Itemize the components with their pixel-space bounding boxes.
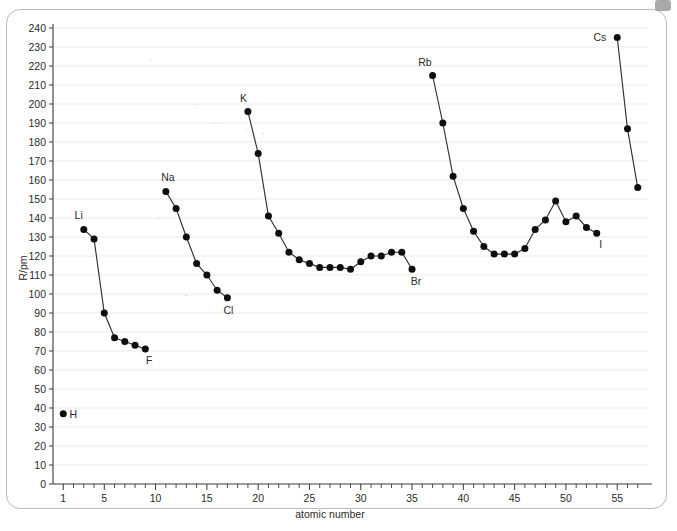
series-hydrogen [60,410,67,417]
y-tick-label: 20 [34,440,46,452]
series-line [248,112,412,270]
series-period-2 [80,226,149,353]
data-point [409,266,416,273]
series-period-5 [429,72,600,258]
y-tick-label: 40 [34,402,46,414]
data-point [429,72,436,79]
x-tick-label: 20 [252,492,264,504]
data-point [285,249,292,256]
y-tick-label: 100 [28,288,46,300]
data-point [624,125,631,132]
x-tick-label: 10 [150,492,162,504]
data-point [80,226,87,233]
data-point [91,235,98,242]
axis-lines [53,24,652,484]
point-label-cl: Cl [223,304,233,316]
data-point [193,260,200,267]
chart-area: 0102030405060708090100110120130140150160… [0,0,677,531]
y-tick-label: 160 [28,174,46,186]
data-point [450,173,457,180]
data-point [306,260,313,267]
data-point [562,218,569,225]
x-tick-label: 50 [560,492,572,504]
y-tick-label: 130 [28,231,46,243]
data-point [398,249,405,256]
data-point [244,108,251,115]
y-tick-label: 60 [34,364,46,376]
x-tick-label: 5 [101,492,107,504]
series-line [433,76,597,255]
data-point [439,120,446,127]
data-point [255,150,262,157]
data-point [491,251,498,258]
data-point [347,266,354,273]
y-tick-label: 90 [34,307,46,319]
data-point [183,234,190,241]
data-point [132,342,139,349]
data-point [316,264,323,271]
data-point [173,205,180,212]
x-axis-ticks: 1510152025303540455055 [60,484,637,504]
radius-vs-atomic-number-chart: 0102030405060708090100110120130140150160… [0,0,677,531]
data-point [480,243,487,250]
y-tick-label: 110 [29,269,46,281]
data-point [121,338,128,345]
point-label-cs: Cs [593,31,606,43]
point-label-li: Li [75,209,83,221]
gridlines [53,28,648,465]
y-tick-label: 10 [34,459,46,471]
point-label-f: F [146,354,152,366]
x-tick-label: 40 [458,492,470,504]
data-point [573,213,580,220]
series-line [84,229,146,349]
point-label-i: I [599,238,602,250]
data-point [368,253,375,260]
y-tick-label: 80 [34,326,46,338]
y-tick-label: 180 [28,136,46,148]
data-point [501,251,508,258]
data-point [326,264,333,271]
point-label-br: Br [411,275,422,287]
data-point [101,310,108,317]
y-tick-label: 230 [28,41,46,53]
x-tick-label: 30 [355,492,367,504]
data-point [357,258,364,265]
y-tick-label: 150 [28,193,46,205]
y-axis-ticks: 0102030405060708090100110120130140150160… [28,22,53,490]
data-point [378,253,385,260]
y-tick-label: 190 [28,117,46,129]
series-period-3 [162,188,231,301]
data-point [162,188,169,195]
y-tick-label: 50 [34,383,46,395]
series-line [617,38,638,188]
data-point [111,334,118,341]
y-tick-label: 170 [28,155,46,167]
data-point [614,34,621,41]
y-axis-title: R/pm [17,255,29,280]
y-tick-label: 0 [40,478,46,490]
data-point [521,245,528,252]
data-point [511,251,518,258]
point-label-rb: Rb [418,56,432,68]
data-point [142,346,149,353]
x-tick-label: 25 [304,492,316,504]
point-labels: HLiFNaClKBrRbICs [69,31,606,420]
y-tick-label: 70 [34,345,46,357]
y-tick-label: 200 [28,98,46,110]
y-tick-label: 30 [34,421,46,433]
y-tick-label: 120 [28,250,46,262]
data-point [275,230,282,237]
data-point [337,264,344,271]
data-point [203,272,210,279]
data-point [634,184,641,191]
data-point [265,213,272,220]
data-point [460,205,467,212]
x-tick-label: 35 [406,492,418,504]
data-point [296,256,303,263]
data-point [60,410,67,417]
data-point [224,294,231,301]
x-axis-title: atomic number [295,508,365,520]
y-tick-label: 210 [28,79,46,91]
data-point [552,197,559,204]
y-tick-label: 240 [28,22,46,34]
